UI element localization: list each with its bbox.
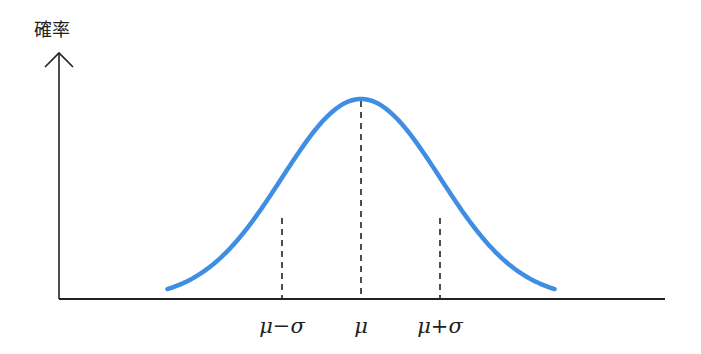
mean-label: μ xyxy=(354,314,368,338)
plus-sigma-label: μ+σ xyxy=(417,314,463,338)
reference-lines xyxy=(282,101,440,298)
y-axis-label: 確率 xyxy=(34,15,70,41)
minus-sigma-label: μ−σ xyxy=(259,314,305,338)
normal-distribution-diagram xyxy=(0,0,701,354)
